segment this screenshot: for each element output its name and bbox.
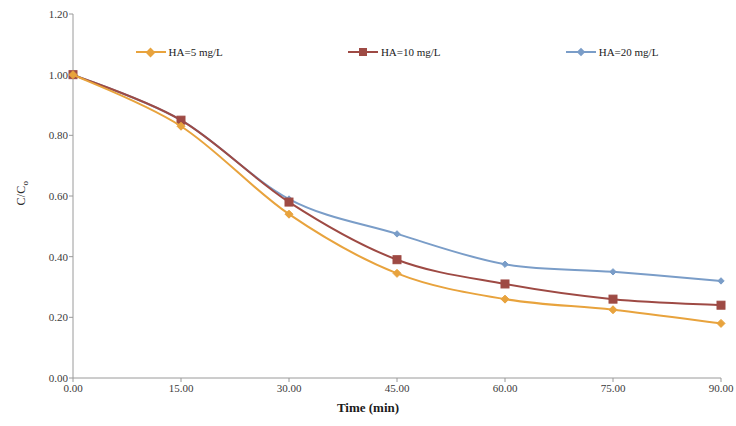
y-tick-label: 0.60 xyxy=(22,190,68,202)
series-ha-20-mg-l xyxy=(70,71,724,284)
chart-container: C/Co 0.000.200.400.600.801.001.20 HA=5 m… xyxy=(0,0,736,426)
data-point-marker xyxy=(609,295,617,303)
data-point-marker xyxy=(394,231,400,237)
y-tick-label: 1.00 xyxy=(22,69,68,81)
y-tick-label: 0.80 xyxy=(22,129,68,141)
x-tick-label: 0.00 xyxy=(63,382,82,394)
y-tick-label: 0.40 xyxy=(22,251,68,263)
data-point-marker xyxy=(393,256,401,264)
data-point-marker xyxy=(718,278,724,284)
x-tick-label: 45.00 xyxy=(385,382,410,394)
data-point-marker xyxy=(609,306,617,314)
data-point-marker xyxy=(717,319,725,327)
x-tick-label: 60.00 xyxy=(493,382,518,394)
data-point-marker xyxy=(502,261,508,267)
y-tick-label: 1.20 xyxy=(22,8,68,20)
x-tick-label: 75.00 xyxy=(601,382,626,394)
x-axis-title: Time (min) xyxy=(0,400,736,416)
y-axis-ticks: 0.000.200.400.600.801.001.20 xyxy=(16,0,68,426)
series-ha-5-mg-l xyxy=(69,71,725,328)
y-tick-label: 0.20 xyxy=(22,311,68,323)
x-tick-label: 90.00 xyxy=(709,382,734,394)
data-point-marker xyxy=(393,269,401,277)
series-line xyxy=(73,75,721,281)
x-tick-label: 30.00 xyxy=(277,382,302,394)
x-tick-label: 15.00 xyxy=(169,382,194,394)
data-point-marker xyxy=(285,198,293,206)
series-line xyxy=(73,75,721,324)
data-point-marker xyxy=(610,269,616,275)
plot-canvas xyxy=(0,0,736,426)
y-tick-label: 0.00 xyxy=(22,372,68,384)
data-point-marker xyxy=(717,301,725,309)
data-point-marker xyxy=(501,295,509,303)
data-point-marker xyxy=(501,280,509,288)
